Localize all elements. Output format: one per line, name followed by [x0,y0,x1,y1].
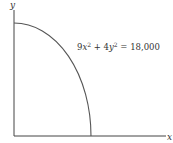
x-axis-label: x [167,132,172,142]
y-axis-label: y [9,0,16,10]
equation-label: 9x2 + 4y2 = 18,000 [77,41,160,53]
ellipse-diagram: y x 9x2 + 4y2 = 18,000 [0,0,173,143]
ellipse-curve [14,23,91,136]
